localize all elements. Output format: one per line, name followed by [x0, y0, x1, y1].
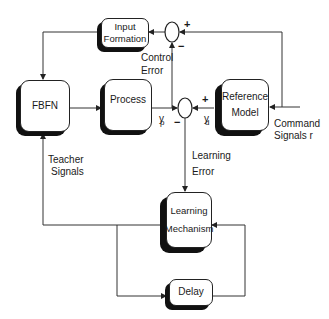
- yp-subscript: p: [160, 118, 164, 127]
- teacher-signals-label: Teacher Signals: [48, 154, 84, 178]
- control-junction-plus: +: [184, 18, 190, 30]
- control-junction-minus: −: [178, 40, 184, 52]
- process-block: Process: [104, 79, 152, 131]
- process-label: Process: [110, 94, 146, 107]
- learning-summing-junction: [178, 98, 192, 118]
- command-signals-label: Command Signals r: [274, 118, 320, 142]
- fbfn-block: FBFN: [20, 80, 70, 132]
- command-signals-line2: Signals r: [274, 130, 320, 142]
- command-signals-line1: Command: [274, 118, 320, 130]
- learning-junction-minus: −: [174, 116, 180, 128]
- learning-mechanism-block: Learning Mechanism: [166, 192, 212, 248]
- yp-label: yp: [159, 113, 168, 125]
- control-error-line2: Error: [141, 65, 173, 77]
- reference-model-line1: Reference: [222, 91, 268, 104]
- reference-model-line2: Model: [231, 107, 258, 120]
- input-formation-line1: Input: [114, 21, 135, 33]
- control-error-line1: Control: [141, 52, 173, 64]
- input-formation-block: Input Formation: [101, 18, 149, 48]
- delay-label: Delay: [178, 286, 204, 299]
- teacher-signals-line2: Signals: [51, 166, 84, 178]
- reference-model-block: Reference Model: [221, 79, 269, 131]
- learning-error-line2: Error: [192, 166, 231, 178]
- learning-error-line1: Learning: [192, 150, 231, 162]
- yd-subscript: d: [205, 118, 209, 127]
- learning-junction-plus: +: [202, 93, 208, 105]
- input-formation-line2: Formation: [104, 33, 147, 45]
- teacher-signals-line1: Teacher: [48, 154, 84, 166]
- learning-mechanism-line1: Learning: [171, 205, 208, 217]
- fbfn-label: FBFN: [32, 100, 58, 113]
- control-error-label: Control Error: [141, 52, 173, 77]
- control-summing-junction: [165, 22, 179, 42]
- yd-label: yd: [204, 113, 213, 125]
- delay-block: Delay: [169, 279, 213, 306]
- learning-mechanism-line2: Mechanism: [165, 223, 214, 235]
- learning-error-label: Learning Error: [192, 150, 231, 178]
